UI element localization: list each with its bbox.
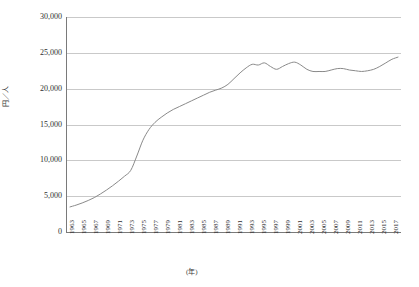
x-tick-label: 2001 (297, 220, 304, 234)
x-tick-label: 1973 (129, 220, 136, 234)
plot-area (66, 17, 401, 233)
y-axis-tick-labels: 30,00025,00020,00015,00010,0005,0000 (10, 0, 62, 287)
y-tick-label: 30,000 (18, 13, 62, 21)
y-axis-title: 円／人 (0, 56, 10, 136)
x-tick-label: 1975 (141, 220, 148, 234)
y-tick-label: 0 (18, 228, 62, 236)
x-tick-label: 1983 (189, 220, 196, 234)
x-tick-label: 2009 (345, 220, 352, 234)
x-tick-label: 1969 (105, 220, 112, 234)
x-tick-label: 1967 (93, 220, 100, 234)
x-tick-label: 1979 (165, 220, 172, 234)
x-tick-label: 1999 (285, 220, 292, 234)
x-tick-label: 2003 (309, 220, 316, 234)
series-line-yen-per-person (67, 17, 401, 232)
y-tick-label: 25,000 (18, 49, 62, 57)
x-tick-label: 1985 (201, 220, 208, 234)
x-axis-title: (年) (186, 266, 198, 276)
y-tick-label: 15,000 (18, 121, 62, 129)
y-tick-label: 20,000 (18, 85, 62, 93)
x-tick-label: 2007 (333, 220, 340, 234)
x-tick-label: 1977 (153, 220, 160, 234)
series-path (70, 57, 398, 207)
x-tick-label: 2011 (357, 220, 364, 234)
x-tick-label: 2013 (369, 220, 376, 234)
x-tick-label: 1963 (69, 220, 76, 234)
x-tick-label: 1971 (117, 220, 124, 234)
x-tick-label: 1995 (261, 220, 268, 234)
y-tick-label: 5,000 (18, 192, 62, 200)
x-tick-label: 2015 (381, 220, 388, 234)
x-tick-label: 1965 (81, 220, 88, 234)
y-tick-label: 10,000 (18, 156, 62, 164)
x-axis-tick-labels: 1963196519671969197119731975197719791981… (66, 234, 400, 268)
line-chart: 円／人 30,00025,00020,00015,00010,0005,0000… (0, 0, 419, 287)
x-tick-label: 2017 (393, 220, 400, 234)
x-tick-label: 1991 (237, 220, 244, 234)
x-tick-label: 1989 (225, 220, 232, 234)
x-tick-label: 1987 (213, 220, 220, 234)
x-tick-label: 1997 (273, 220, 280, 234)
x-tick-label: 2005 (321, 220, 328, 234)
x-tick-label: 1981 (177, 220, 184, 234)
x-tick-label: 1993 (249, 220, 256, 234)
